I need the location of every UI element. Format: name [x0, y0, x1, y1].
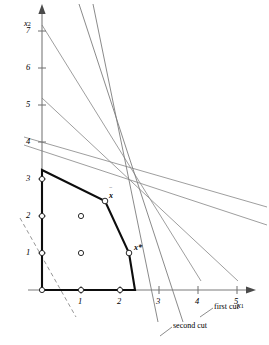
lattice-point	[39, 213, 44, 218]
x-tick-label-4: 4	[195, 296, 199, 306]
lattice-point	[78, 287, 83, 292]
second-cut-line	[93, 4, 158, 322]
integer-optimum-marker	[126, 250, 132, 256]
x-tick-label-3: 3	[156, 296, 160, 306]
lattice-point	[39, 176, 44, 181]
plot-svg	[0, 0, 269, 345]
x-axis-arrow	[246, 286, 256, 293]
second-cut-leader	[160, 327, 172, 336]
y-tick-label-3: 3	[26, 173, 30, 183]
feasible-region-outline	[42, 170, 135, 290]
feasible-region-boundary	[42, 170, 135, 290]
y-tick-label-2: 2	[26, 210, 30, 220]
lp-optimum-label-text: x	[109, 193, 113, 199]
lattice-point	[39, 250, 44, 255]
y-axis-arrow	[38, 4, 45, 14]
lattice-point	[39, 287, 44, 292]
integer-optimum-label: x*	[134, 243, 142, 252]
y-tick-label-5: 5	[26, 99, 30, 109]
lattice-point	[117, 287, 122, 292]
figure-canvas: 7 6 5 4 3 2 1 1 2 3 4 5 x2 x1 ‾ x x* fir…	[0, 0, 269, 345]
y-tick-label-6: 6	[26, 62, 30, 72]
constraint-line-a	[42, 25, 201, 281]
first-cut-line	[79, 4, 183, 322]
x-axis-label-sub: 1	[241, 303, 244, 309]
y-tick-label-1: 1	[26, 247, 30, 257]
constraint-lines-group	[24, 25, 267, 281]
y-axis-label-sub: 2	[28, 21, 31, 27]
x-tick-label-2: 2	[117, 296, 121, 306]
second-cut-label: second cut	[173, 321, 207, 330]
first-cut-leader	[200, 308, 213, 317]
lattice-point	[78, 213, 83, 218]
y-axis-label: x2	[24, 12, 31, 30]
lattice-point	[78, 250, 83, 255]
dashed-cut-line	[20, 218, 76, 317]
first-cut-label: first cut	[214, 302, 239, 311]
cut-lines-group	[20, 4, 183, 322]
constraint-line-c	[24, 137, 267, 207]
constraint-line-d	[24, 145, 267, 225]
lp-optimum-label: ‾ x	[109, 187, 113, 199]
lp-optimum-marker	[102, 198, 108, 204]
y-tick-label-4: 4	[26, 136, 30, 146]
x-tick-label-1: 1	[78, 296, 82, 306]
